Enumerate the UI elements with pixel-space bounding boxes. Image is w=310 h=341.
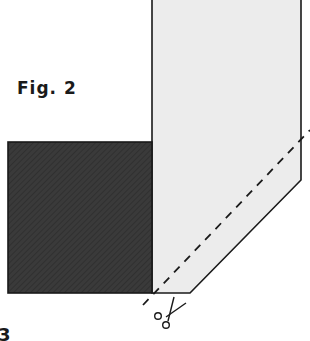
figure-label: Fig. 2 bbox=[17, 78, 77, 98]
quilt-diagram bbox=[0, 0, 310, 341]
scissors-icon bbox=[155, 297, 186, 328]
next-figure-label-partial: 3 bbox=[0, 324, 11, 341]
dark-fabric-square bbox=[8, 142, 152, 293]
light-fabric-panel bbox=[152, 0, 301, 293]
